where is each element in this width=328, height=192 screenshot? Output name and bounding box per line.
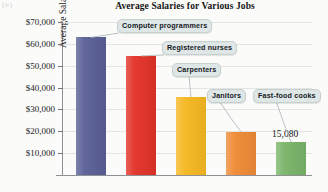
bar — [276, 142, 306, 175]
y-axis-title: Average Salary — [58, 0, 68, 74]
y-axis-tick — [58, 44, 63, 45]
callout-label: Carpenters — [172, 63, 221, 77]
y-axis-tick — [58, 88, 63, 89]
y-axis-tick-label: $60,000 — [26, 39, 55, 49]
y-axis-tick-label: $40,000 — [26, 83, 55, 93]
y-axis-tick-label: $50,000 — [26, 61, 55, 71]
y-axis-tick — [58, 66, 63, 67]
y-axis-tick — [58, 109, 63, 110]
bar — [126, 56, 156, 175]
callout-label: Registered nurses — [162, 41, 237, 55]
callout-label: Janitors — [207, 89, 246, 103]
chart-figure: (b) Average Salaries for Various Jobs Av… — [0, 0, 328, 192]
y-axis-tick — [58, 153, 63, 154]
x-axis-line — [56, 175, 312, 176]
callout-label: Computer programmers — [117, 19, 212, 33]
bar — [176, 97, 206, 175]
bar-value-label: 15,080 — [272, 129, 298, 139]
y-axis-tick — [58, 131, 63, 132]
y-axis-tick — [58, 22, 63, 23]
y-axis-tick-label: $70,000 — [26, 17, 55, 27]
y-axis-tick-label: $30,000 — [26, 104, 55, 114]
y-axis-tick-label: $10,000 — [26, 148, 55, 158]
bar — [76, 37, 106, 175]
y-axis-tick-label: $20,000 — [26, 126, 55, 136]
chart-title: Average Salaries for Various Jobs — [60, 1, 310, 11]
bar — [226, 132, 256, 175]
callout-label: Fast-food cooks — [253, 89, 321, 103]
figure-corner-mark: (b) — [2, 1, 28, 9]
